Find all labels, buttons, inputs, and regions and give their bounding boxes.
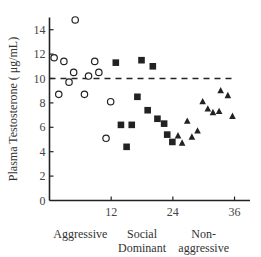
filled-triangle-marker [175,132,182,138]
series-aggressive [51,17,114,142]
filled-square-marker [134,94,141,101]
open-circle-marker [70,69,76,75]
filled-triangle-marker [225,92,232,98]
series-social-dominant [113,57,176,150]
open-circle-marker [92,58,98,64]
category-label: Social [127,227,158,241]
y-tick-label: 6 [40,120,46,134]
category-label: Non- [191,227,216,241]
category-label: aggressive [178,241,229,255]
y-tick-label: 12 [34,47,46,61]
filled-triangle-marker [217,87,224,93]
open-circle-marker [72,17,78,23]
filled-triangle-marker [184,117,191,123]
filled-triangle-marker [216,108,223,114]
y-axis-title: Plasma Testosterone ( μg/mL) [6,37,20,181]
open-circle-marker [51,55,57,61]
filled-square-marker [118,122,125,129]
filled-triangle-marker [229,113,236,119]
filled-triangle-marker [210,109,217,115]
open-circle-marker [81,91,87,97]
filled-square-marker [150,63,157,70]
filled-triangle-marker [189,133,196,139]
filled-square-marker [138,57,145,64]
y-tick-label: 4 [40,145,46,159]
series-non-aggressive [175,87,236,146]
filled-square-marker [154,115,161,122]
filled-triangle-marker [194,127,201,133]
filled-square-marker [123,144,130,151]
open-circle-marker [66,79,72,85]
x-tick-label: 36 [229,205,241,219]
y-tick-label: 14 [34,23,46,37]
filled-square-marker [128,122,135,129]
filled-square-marker [164,131,171,138]
data-points [51,17,236,150]
y-axis-title-text: Plasma Testosterone ( μg/mL) [6,37,20,181]
x-tick-label: 12 [105,205,117,219]
filled-square-marker [144,107,151,114]
y-tick-label: 2 [40,169,46,183]
y-tick-label: 0 [40,194,46,208]
filled-square-marker [161,120,168,127]
y-tick-label: 8 [40,96,46,110]
y-tick-label: 10 [34,72,46,86]
filled-triangle-marker [199,98,206,104]
axes: 02468101214122436 [34,18,251,219]
filled-square-marker [113,59,120,66]
open-circle-marker [103,135,109,141]
filled-triangle-marker [179,139,186,145]
filled-triangle-marker [205,105,212,111]
scatter-chart: Plasma Testosterone ( μg/mL) 02468101214… [0,0,261,257]
open-circle-marker [85,73,91,79]
category-label: Dominant [118,241,167,255]
category-label: Aggressive [53,227,107,241]
x-tick-label: 24 [167,205,179,219]
open-circle-marker [96,69,102,75]
filled-square-marker [169,139,176,146]
open-circle-marker [61,58,67,64]
open-circle-marker [107,98,113,104]
open-circle-marker [56,91,62,97]
category-labels: AggressiveSocialDominantNon-aggressive [53,227,229,255]
